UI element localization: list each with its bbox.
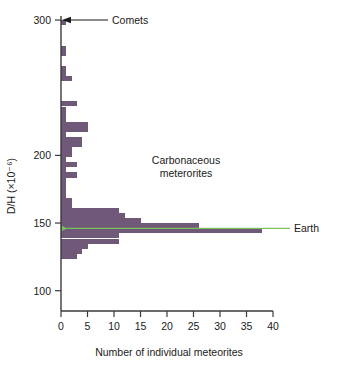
histogram-bar — [61, 254, 77, 259]
y-axis-title: D/H (×10⁻⁶) — [5, 158, 17, 214]
histogram-bar — [61, 193, 66, 198]
histogram-bar — [61, 188, 66, 193]
x-tick-label: 5 — [85, 320, 91, 332]
histogram-bar — [61, 233, 119, 238]
y-tick-label: 300 — [33, 14, 51, 26]
histogram-bar — [61, 198, 72, 203]
histogram-bar — [61, 117, 66, 122]
histogram-bar — [61, 66, 66, 71]
histogram-bar — [61, 76, 72, 81]
histogram-bar — [61, 112, 66, 117]
histogram-bar — [61, 152, 72, 157]
histogram-bar — [61, 183, 66, 188]
histogram-bar — [61, 162, 77, 167]
y-tick-label: 100 — [33, 285, 51, 297]
histogram-bar — [61, 239, 119, 244]
histogram-bar — [61, 101, 77, 106]
carbonaceous-label-line1: Carbonaceous — [152, 154, 220, 166]
histogram-bar — [61, 142, 82, 147]
x-tick-label: 25 — [188, 320, 200, 332]
histogram-bar — [61, 249, 82, 254]
earth-label: Earth — [294, 222, 319, 234]
histogram-bar — [61, 172, 77, 177]
histogram-bar — [61, 203, 72, 208]
carbonaceous-label-line2: meterorites — [160, 167, 213, 179]
histogram-bar — [61, 228, 262, 233]
histogram-bar — [61, 46, 66, 51]
histogram-bar — [61, 223, 199, 228]
x-tick-label: 20 — [161, 320, 173, 332]
carbonaceous-annotation: Carbonaceous meterorites — [152, 154, 220, 179]
x-tick-label: 0 — [58, 320, 64, 332]
x-tick-label: 30 — [214, 320, 226, 332]
y-tick-label: 150 — [33, 217, 51, 229]
histogram-bar — [61, 107, 66, 112]
x-tick-label: 10 — [108, 320, 120, 332]
histogram-bar — [61, 71, 66, 76]
y-axis-ticks: 100150200300 — [33, 14, 61, 297]
histogram-bar — [61, 167, 66, 172]
x-tick-label: 15 — [135, 320, 147, 332]
histogram-bar — [61, 244, 88, 249]
dh-ratio-histogram-figure: Earth Comets Carbonaceous meterorites 10… — [0, 0, 338, 369]
x-tick-label: 35 — [241, 320, 253, 332]
histogram-bar — [61, 127, 88, 132]
comets-label: Comets — [112, 14, 148, 26]
chart-canvas: Earth Comets Carbonaceous meterorites 10… — [0, 0, 338, 369]
histogram-bar — [61, 157, 66, 162]
histogram-bar — [61, 213, 125, 218]
histogram-bar — [61, 218, 141, 223]
histogram-bar — [61, 51, 66, 56]
comets-annotation: Comets — [62, 14, 148, 26]
histogram-bars — [61, 20, 262, 259]
histogram-bar — [61, 178, 66, 183]
histogram-bar — [61, 147, 72, 152]
histogram-bar — [61, 208, 119, 213]
histogram-bar — [61, 137, 82, 142]
histogram-bar — [61, 132, 66, 137]
x-tick-label: 40 — [267, 320, 279, 332]
x-axis-ticks: 0510152025303540 — [58, 311, 279, 332]
y-tick-label: 200 — [33, 149, 51, 161]
x-axis-title: Number of individual meteorites — [95, 346, 243, 358]
histogram-bar — [61, 122, 88, 127]
